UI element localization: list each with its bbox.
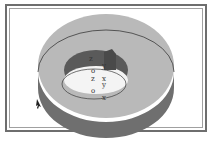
label-z-mid: z (91, 75, 95, 83)
label-y-mid: y (101, 81, 106, 89)
ring-scene: z y o z x y o x (0, 0, 216, 143)
label-z-top: z (89, 55, 93, 63)
hole-opening (64, 66, 128, 94)
label-o-lower: o (91, 87, 95, 95)
label-y-top: y (101, 62, 106, 70)
label-o-upper: o (91, 67, 95, 75)
label-x-bottom: x (102, 94, 106, 102)
